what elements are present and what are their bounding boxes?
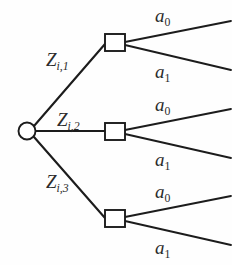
branch-3-a0: [125, 196, 231, 217]
branch-label-2-a1: a1: [155, 150, 170, 173]
branch-label-3-a1: a1: [155, 238, 170, 261]
edge-label-z-i-1: Zi,1: [46, 50, 69, 73]
decision-tree-diagram: Zi,1 Zi,2 Zi,3 a0 a1 a0 a1 a0 a1: [0, 0, 232, 265]
branch-1-a1: [125, 45, 231, 70]
branch-label-3-a0: a0: [155, 182, 170, 205]
branch-label-2-a0: a0: [155, 95, 170, 118]
edge-label-z-i-3: Zi,3: [46, 172, 69, 195]
root-chance-node: [19, 123, 36, 140]
edge-label-z-i-2: Zi,2: [57, 110, 80, 133]
decision-node-3: [105, 210, 125, 227]
decision-node-1: [105, 34, 125, 51]
branch-2-a1: [125, 134, 231, 158]
decision-node-2: [105, 123, 125, 140]
action-branches: [125, 21, 231, 245]
branch-3-a1: [125, 221, 231, 245]
tree-graphic: [0, 0, 232, 265]
root-edge-3: [34, 137, 105, 218]
branch-label-1-a0: a0: [155, 6, 170, 29]
branch-2-a0: [125, 109, 231, 130]
branch-label-1-a1: a1: [155, 62, 170, 85]
branch-1-a0: [125, 21, 231, 42]
